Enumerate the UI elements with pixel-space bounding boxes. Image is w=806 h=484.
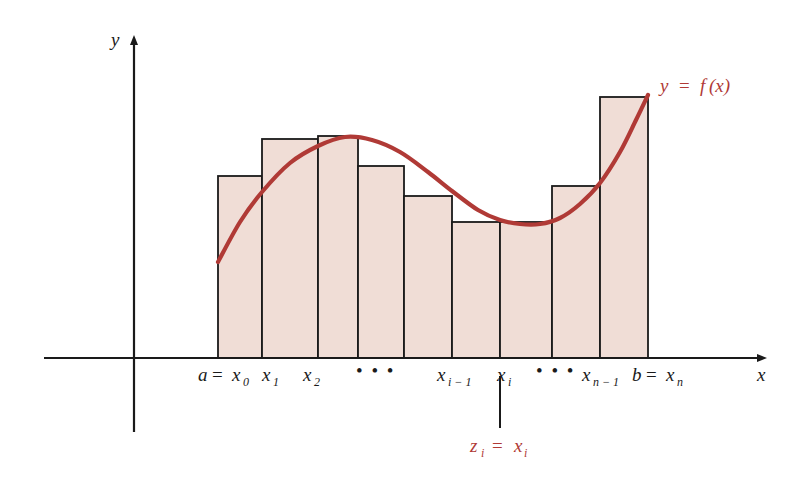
tick-main: a: [198, 364, 208, 385]
ellipsis-dots: • • •: [536, 360, 575, 381]
tick-label-xn-minus-1: xn − 1: [581, 364, 619, 389]
tick-variable: x: [231, 364, 241, 385]
tick-subscript: i: [508, 375, 511, 389]
sample-point-z-subscript: i: [481, 446, 484, 460]
sample-point-x: x: [513, 435, 523, 456]
tick-subscript: i − 1: [448, 375, 471, 389]
tick-label-x1: x1: [261, 364, 279, 389]
curve-label-y: y: [658, 75, 669, 96]
tick-variable: x: [581, 364, 591, 385]
tick-variable: x: [302, 364, 312, 385]
curve-label-f: f: [700, 75, 708, 96]
tick-label-x2: x2: [302, 364, 320, 389]
riemann-rectangle: [358, 166, 404, 358]
riemann-rectangle: [318, 136, 358, 358]
riemann-rectangle: [600, 97, 648, 358]
tick-subscript: 1: [273, 375, 279, 389]
tick-subscript: n: [677, 375, 683, 389]
riemann-rectangles: [218, 97, 648, 358]
x-axis-label: x: [756, 364, 766, 385]
tick-subscript: n − 1: [593, 375, 619, 389]
riemann-rectangle: [500, 222, 552, 358]
sample-point-x-subscript: i: [524, 446, 527, 460]
curve-label-equals: =: [679, 75, 690, 96]
tick-subscript: 2: [314, 375, 320, 389]
tick-label-a-equals-x0: a=x0: [198, 364, 249, 389]
tick-operator: =: [212, 364, 223, 385]
y-axis-label: y: [109, 29, 120, 50]
sample-point-annotation: z i = x i: [469, 376, 527, 460]
tick-variable: x: [665, 364, 675, 385]
sample-point-z: z: [469, 435, 478, 456]
riemann-rectangle: [552, 186, 600, 358]
riemann-rectangle: [262, 139, 318, 358]
riemann-rectangle: [452, 222, 500, 358]
tick-label-ellipsis-left: • • •: [356, 360, 395, 381]
ellipsis-dots: • • •: [356, 360, 395, 381]
tick-label-ellipsis-right: • • •: [536, 360, 575, 381]
tick-variable: x: [436, 364, 446, 385]
curve-label-arg: (x): [709, 75, 730, 97]
tick-subscript: 0: [243, 375, 249, 389]
tick-main: b: [632, 364, 642, 385]
riemann-sum-figure: a=x0x1x2• • •xi − 1xi• • •xn − 1b=xn y x…: [0, 0, 806, 484]
tick-label-xi: xi: [496, 364, 511, 389]
tick-operator: =: [646, 364, 657, 385]
tick-label-b-equals-xn: b=xn: [632, 364, 683, 389]
sample-point-equals: =: [492, 435, 503, 456]
tick-label-xi-minus-1: xi − 1: [436, 364, 471, 389]
tick-variable: x: [261, 364, 271, 385]
x-axis-tick-labels: a=x0x1x2• • •xi − 1xi• • •xn − 1b=xn: [198, 360, 683, 389]
riemann-rectangle: [404, 196, 452, 358]
curve-label: y = f (x): [658, 75, 730, 97]
